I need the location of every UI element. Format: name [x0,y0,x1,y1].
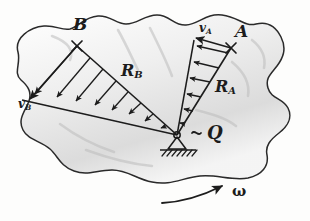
diagram-canvas: B A vA vB RB RA Q ω [0,0,310,221]
point-a-label: A [235,23,248,40]
omega-label: ω [232,184,246,199]
radius-a-label: RA [215,79,236,96]
sketch-svg [0,0,310,221]
pivot-q-label: Q [207,124,223,142]
radius-b-label: RB [121,63,143,80]
velocity-a-label: vA [199,22,212,35]
velocity-b-label: vB [18,98,31,111]
rigid-body-blob [17,15,290,183]
point-b-label: B [73,16,87,33]
omega-rotation-arrow [162,186,222,203]
